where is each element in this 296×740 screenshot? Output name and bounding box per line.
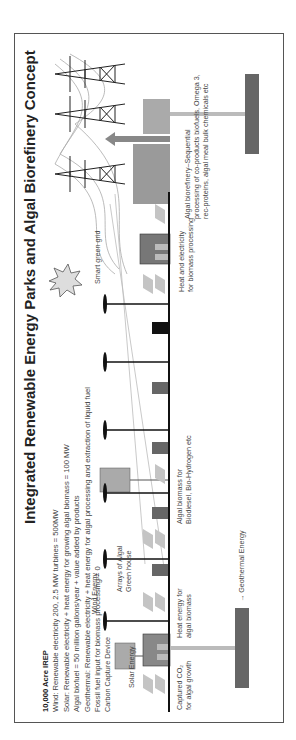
power-tower-icon [55,56,125,192]
label-biorefinery: Algal biorefinery–Sequentialprocessing o… [183,74,210,219]
label-geothermal: → Geothermal Energy [237,530,246,602]
label-algal-biomass: Algal biomass forBiodiesel, Bio-Hydrogen… [175,435,193,524]
label-wind-energy: Wind Energy [90,573,99,614]
geothermal-plate [235,608,249,688]
diagram-canvas: Integrated Renewable Energy Parks and Al… [15,34,284,723]
label-captured-co2: Captured CO₂for algal growth [175,661,193,710]
label-solar-energy: Solar Energy [127,646,136,688]
label-carbon-capture: Carbon Capture Device [103,637,112,712]
biorefinery-building [133,144,170,204]
label-heat-energy: Heat energy foralgal biomass [175,588,193,638]
label-smart-grid: Smart green grid [93,230,102,284]
sun-icon [49,264,82,297]
diagram-graphics [15,34,284,723]
label-heat-electricity: Heat and electricityfor biomass processi… [177,218,195,292]
diagram-frame: Integrated Renewable Energy Parks and Al… [14,33,284,723]
label-arrays: Arrays of AlgalGreen house [115,546,133,592]
ground-line [168,192,170,712]
